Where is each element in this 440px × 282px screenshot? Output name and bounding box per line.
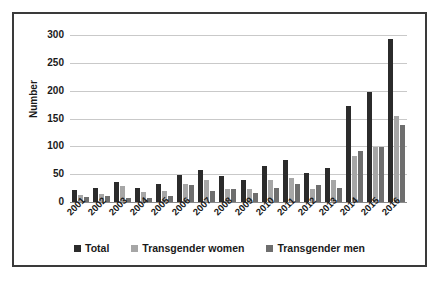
bar-group-2012: [302, 35, 323, 202]
chart-frame: Number 050100150200250300 20012002200320…: [12, 12, 427, 267]
bar-group-2014: [344, 35, 365, 202]
bar-2016-transgender-men[interactable]: [400, 125, 405, 202]
y-tick-label-100: 100: [47, 141, 64, 151]
bar-2014-transgender-men[interactable]: [358, 151, 363, 202]
y-tick-label-200: 200: [47, 86, 64, 96]
bar-group-2001: [70, 35, 91, 202]
legend-swatch-icon-2: [266, 245, 273, 252]
chart-legend: TotalTransgender womenTransgender men: [14, 242, 425, 254]
y-tick-label-300: 300: [47, 30, 64, 40]
legend-item-transgender-women[interactable]: Transgender women: [131, 242, 244, 254]
bar-group-2010: [260, 35, 281, 202]
legend-swatch-icon-1: [131, 245, 138, 252]
y-tick-label-50: 50: [53, 169, 64, 179]
legend-label-0: Total: [85, 242, 109, 254]
bar-2011-transgender-men[interactable]: [295, 184, 300, 202]
bars-layer: [70, 35, 407, 202]
bar-group-2016: [386, 35, 407, 202]
legend-item-transgender-men[interactable]: Transgender men: [266, 242, 365, 254]
bar-group-2003: [112, 35, 133, 202]
x-axis-labels: 2001200220032004200520062007200820092010…: [70, 204, 407, 240]
bar-2015-transgender-men[interactable]: [379, 147, 384, 202]
y-tick-label-250: 250: [47, 58, 64, 68]
y-tick-label-150: 150: [47, 114, 64, 124]
bar-2015-total[interactable]: [367, 92, 372, 202]
x-label-cell-2016: 2016: [386, 204, 407, 240]
legend-label-2: Transgender men: [277, 242, 365, 254]
bar-2016-transgender-women[interactable]: [394, 116, 399, 202]
legend-swatch-icon-0: [74, 245, 81, 252]
y-tick-label-0: 0: [58, 197, 64, 207]
bar-group-2011: [281, 35, 302, 202]
bar-group-2015: [365, 35, 386, 202]
bar-group-2006: [175, 35, 196, 202]
plot-area: 050100150200250300: [70, 35, 407, 202]
y-axis-title: Number: [28, 80, 39, 118]
bar-group-2004: [133, 35, 154, 202]
bar-group-2005: [154, 35, 175, 202]
bar-group-2007: [196, 35, 217, 202]
bar-2016-total[interactable]: [388, 39, 393, 202]
bar-2012-transgender-men[interactable]: [316, 185, 321, 202]
bar-group-2009: [239, 35, 260, 202]
bar-2015-transgender-women[interactable]: [373, 147, 378, 202]
x-tick-label-2001: 2001: [64, 195, 87, 218]
bar-group-2008: [217, 35, 238, 202]
bar-group-2002: [91, 35, 112, 202]
legend-label-1: Transgender women: [142, 242, 244, 254]
bar-2014-total[interactable]: [346, 106, 351, 202]
legend-item-total[interactable]: Total: [74, 242, 109, 254]
bar-group-2013: [323, 35, 344, 202]
